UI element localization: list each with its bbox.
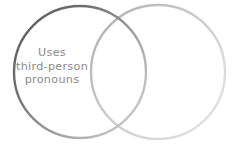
venn-diagram: Uses third-person pronouns	[0, 0, 239, 145]
venn-circle-left	[14, 6, 146, 138]
venn-circle-right	[91, 5, 225, 139]
venn-diagram-canvas	[0, 0, 239, 145]
